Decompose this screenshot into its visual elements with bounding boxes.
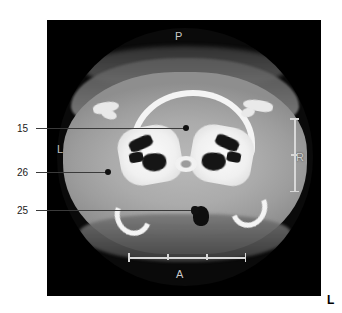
scale-bar-horizontal	[128, 253, 246, 263]
callout-label-15: 15	[17, 124, 28, 134]
scale-bar-tick	[167, 254, 169, 260]
scale-bar-tick	[290, 191, 299, 193]
callout-target-dot-25	[191, 206, 199, 215]
callout-target-dot-15	[183, 125, 189, 131]
orientation-marker-left-outer: L	[327, 294, 334, 306]
air-cell	[201, 152, 226, 171]
air-cell	[142, 153, 167, 172]
callout-leader-line-15	[36, 128, 187, 129]
orientation-marker-anterior: A	[176, 269, 184, 280]
air-cell	[226, 151, 242, 163]
scan-field-of-view	[57, 28, 313, 286]
central-bone-nodule	[175, 156, 197, 172]
air-cell	[214, 132, 241, 153]
orientation-marker-posterior: P	[175, 31, 183, 42]
air-cell	[127, 133, 154, 154]
scale-bar-vertical	[290, 118, 300, 192]
callout-leader-line-26	[36, 172, 109, 173]
ct-figure: P A L R 15 26 25 L	[0, 0, 342, 313]
orientation-marker-left-inner: L	[57, 144, 64, 155]
scale-bar-tick	[206, 254, 208, 260]
scale-bar-rule	[128, 257, 246, 259]
ct-image-panel: P A L R	[47, 20, 321, 296]
scale-bar-tick	[290, 118, 299, 120]
callout-target-dot-26	[105, 169, 111, 175]
scale-bar-tick	[128, 253, 130, 262]
callout-label-25: 25	[17, 206, 28, 216]
callout-leader-line-25	[36, 210, 195, 211]
scale-bar-tick	[245, 253, 247, 262]
callout-label-26: 26	[17, 168, 28, 178]
scale-bar-tick	[291, 154, 297, 156]
